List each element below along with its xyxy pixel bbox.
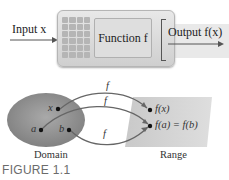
point-b [67,128,71,132]
domain-point-x-label: x [48,102,53,113]
function-label: Function f [98,31,148,46]
domain-point-a-label: a [31,123,36,134]
function-machine: Function f [57,10,175,67]
output-label: Output f(x) [168,25,222,40]
range-label: Range [160,149,187,160]
input-arrow-icon [10,36,58,44]
point-fx [148,108,152,112]
figure-caption: FIGURE 1.1 [2,163,70,177]
function-screen: Function f [94,18,152,58]
arrow-label-f-1: f [106,80,109,91]
range-point-fx-label: f(x) [155,103,170,114]
point-a [39,128,43,132]
output-bracket [161,19,166,61]
domain-point-b-label: b [59,123,64,134]
point-fa-fb [148,124,152,128]
arrow-label-f-2: f [104,95,107,106]
arrow-label-f-3: f [103,128,106,139]
range-point-fa-fb-label: f(a) = f(b) [155,119,198,130]
output-arrow-icon [168,40,224,48]
input-label: Input x [12,22,46,37]
keypad-icon [62,17,90,58]
domain-shape [7,93,85,147]
point-x [56,107,60,111]
domain-label: Domain [34,149,68,160]
